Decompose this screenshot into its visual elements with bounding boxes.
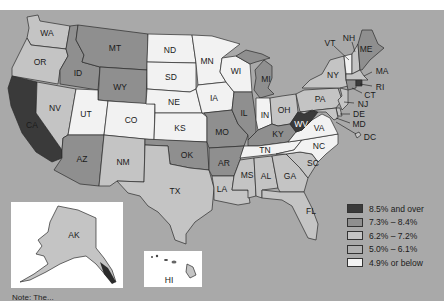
label-ny: NY <box>327 70 339 80</box>
label-or: OR <box>34 57 47 67</box>
state-nj[interactable] <box>338 88 348 110</box>
hi-island <box>151 256 153 258</box>
leader-nh <box>352 42 355 52</box>
label-ia: IA <box>210 93 218 103</box>
label-nh: NH <box>343 33 355 43</box>
label-hi: HI <box>165 275 174 285</box>
label-nv: NV <box>49 103 61 113</box>
legend-item: 6.2% – 7.2% <box>347 229 424 242</box>
label-nm: NM <box>116 157 129 167</box>
label-az: AZ <box>77 154 88 164</box>
legend-label: 5.0% – 6.1% <box>369 244 417 254</box>
label-il: IL <box>240 108 247 118</box>
leader-md <box>336 118 350 123</box>
legend-swatch <box>347 258 363 267</box>
label-fl: FL <box>306 206 316 216</box>
label-dc: DC <box>364 132 376 142</box>
hi-island <box>164 259 168 261</box>
label-ok: OK <box>181 150 194 160</box>
label-md: MD <box>352 119 365 129</box>
label-vt: VT <box>325 38 336 48</box>
label-wi: WI <box>231 66 241 76</box>
label-pa: PA <box>315 94 326 104</box>
label-wv: WV <box>294 119 308 129</box>
label-me: ME <box>360 44 373 54</box>
legend-swatch <box>347 218 363 227</box>
legend: 8.5% and over 7.3% – 8.4% 6.2% – 7.2% 5.… <box>347 202 424 270</box>
label-mt: MT <box>109 43 121 53</box>
label-id: ID <box>74 68 83 78</box>
label-wy: WY <box>113 82 127 92</box>
label-mi: MI <box>261 74 270 84</box>
label-sd: SD <box>165 72 177 82</box>
label-ar: AR <box>218 158 230 168</box>
hi-island <box>172 261 177 264</box>
label-ca: CA <box>26 120 38 130</box>
label-ky: KY <box>272 129 284 139</box>
hi-island <box>156 255 158 257</box>
legend-label: 4.9% or below <box>369 258 423 268</box>
label-ri: RI <box>376 82 385 92</box>
state-ny[interactable] <box>302 56 348 88</box>
label-va: VA <box>314 123 325 133</box>
legend-label: 7.3% – 8.4% <box>369 217 417 227</box>
label-nd: ND <box>164 45 176 55</box>
label-la: LA <box>217 184 228 194</box>
label-ak: AK <box>68 230 80 240</box>
label-mn: MN <box>200 56 213 66</box>
label-sc: SC <box>307 158 319 168</box>
label-mo: MO <box>215 127 229 137</box>
legend-item: 4.9% or below <box>347 256 424 269</box>
label-nj: NJ <box>358 99 368 109</box>
legend-item: 8.5% and over <box>347 202 424 215</box>
legend-item: 7.3% – 8.4% <box>347 216 424 229</box>
label-ut: UT <box>80 109 91 119</box>
label-ga: GA <box>284 171 297 181</box>
legend-label: 8.5% and over <box>369 204 424 214</box>
legend-swatch <box>347 245 363 254</box>
label-wa: WA <box>40 28 54 38</box>
label-ms: MS <box>241 170 254 180</box>
label-ks: KS <box>174 123 186 133</box>
legend-swatch <box>347 204 363 213</box>
label-ne: NE <box>168 97 180 107</box>
label-al: AL <box>261 171 272 181</box>
label-tn: TN <box>259 145 270 155</box>
leader-ma <box>364 72 372 76</box>
label-ma: MA <box>376 66 389 76</box>
label-nc: NC <box>313 141 325 151</box>
legend-swatch <box>347 231 363 240</box>
legend-label: 6.2% – 7.2% <box>369 231 417 241</box>
state-ri[interactable] <box>356 80 362 86</box>
footnote: Note: The... <box>12 293 54 301</box>
label-de: DE <box>353 109 365 119</box>
state-ct[interactable] <box>346 80 356 90</box>
label-co: CO <box>125 115 138 125</box>
label-in: IN <box>261 110 270 120</box>
leader-ct <box>352 88 362 93</box>
label-oh: OH <box>278 105 291 115</box>
state-dc[interactable] <box>355 132 361 138</box>
legend-item: 5.0% – 6.1% <box>347 243 424 256</box>
label-tx: TX <box>170 186 181 196</box>
